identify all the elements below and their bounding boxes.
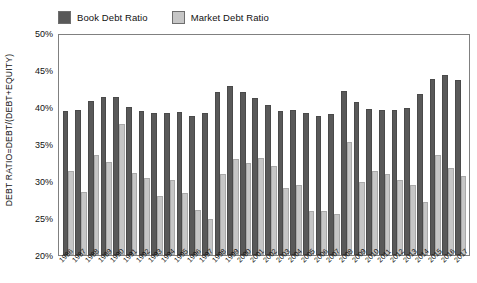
x-axis-tick-slot: 1991 xyxy=(125,257,138,283)
x-axis-tick-slot: 1990 xyxy=(112,257,125,283)
bar-group xyxy=(404,35,417,255)
bar-group xyxy=(87,35,100,255)
bar-group xyxy=(113,35,126,255)
legend-swatch-market-icon xyxy=(172,11,185,24)
y-axis-title: DEBT RATIO=DEBT/(DEBT+EQUITY) xyxy=(0,0,18,260)
bar-group xyxy=(277,35,290,255)
y-axis-tick: 35% xyxy=(35,140,53,150)
bar-market-1986 xyxy=(68,171,74,255)
bars-layer xyxy=(59,35,469,255)
x-axis-tick-slot: 2016 xyxy=(443,257,456,283)
bar-group xyxy=(315,35,328,255)
bar-group xyxy=(416,35,429,255)
x-axis-tick-slot: 2002 xyxy=(265,257,278,283)
bar-group xyxy=(138,35,151,255)
plot-area xyxy=(58,34,470,256)
bar-market-1994 xyxy=(170,180,176,255)
bar-market-2017 xyxy=(461,176,467,255)
x-axis-tick-slot: 2000 xyxy=(239,257,252,283)
x-axis-tick-slot: 2008 xyxy=(341,257,354,283)
bar-chart: Book Debt Ratio Market Debt Ratio DEBT R… xyxy=(0,0,477,283)
bar-market-2002 xyxy=(271,166,277,255)
bar-group xyxy=(353,35,366,255)
bar-market-1987 xyxy=(81,192,87,255)
x-axis-tick-slot: 2010 xyxy=(366,257,379,283)
chart-legend: Book Debt Ratio Market Debt Ratio xyxy=(58,8,358,26)
x-axis-tick-slot: 2009 xyxy=(354,257,367,283)
x-axis-tick-slot: 1997 xyxy=(201,257,214,283)
bar-group xyxy=(201,35,214,255)
bar-group xyxy=(378,35,391,255)
x-axis-tick-slot: 2012 xyxy=(392,257,405,283)
bar-group xyxy=(227,35,240,255)
bar-market-2011 xyxy=(385,174,391,255)
bar-market-2003 xyxy=(283,188,289,255)
x-axis-tick-labels: 1986198719881989199019911992199319941995… xyxy=(58,257,470,283)
x-axis-tick-slot: 1987 xyxy=(74,257,87,283)
y-axis-tick: 30% xyxy=(35,177,53,187)
bar-group xyxy=(75,35,88,255)
y-axis-tick: 40% xyxy=(35,103,53,113)
legend-item-book-debt-ratio: Book Debt Ratio xyxy=(58,11,148,24)
bar-group xyxy=(340,35,353,255)
bar-group xyxy=(302,35,315,255)
x-axis-tick-slot: 2001 xyxy=(252,257,265,283)
bar-market-1999 xyxy=(233,159,239,255)
x-axis-tick-slot: 2011 xyxy=(379,257,392,283)
bar-market-2010 xyxy=(372,171,378,255)
bar-group xyxy=(176,35,189,255)
bar-group xyxy=(429,35,442,255)
bar-group xyxy=(290,35,303,255)
bar-group xyxy=(391,35,404,255)
bar-group xyxy=(151,35,164,255)
y-axis-tick-labels: 20%25%30%35%40%45%50% xyxy=(20,34,56,256)
bar-market-2001 xyxy=(258,158,264,255)
bar-group xyxy=(100,35,113,255)
y-axis-tick: 45% xyxy=(35,66,53,76)
bar-market-2015 xyxy=(435,155,441,255)
bar-group xyxy=(163,35,176,255)
x-axis-tick-slot: 1989 xyxy=(99,257,112,283)
bar-group xyxy=(62,35,75,255)
bar-market-2008 xyxy=(347,142,353,255)
x-axis-tick-slot: 2007 xyxy=(328,257,341,283)
x-axis-tick-slot: 2004 xyxy=(290,257,303,283)
x-axis-tick-slot: 2014 xyxy=(417,257,430,283)
x-axis-tick-slot: 2017 xyxy=(455,257,468,283)
y-axis-title-text: DEBT RATIO=DEBT/(DEBT+EQUITY) xyxy=(4,54,14,207)
bar-market-1992 xyxy=(144,178,150,255)
bar-market-1991 xyxy=(132,173,138,255)
bar-group xyxy=(252,35,265,255)
bar-market-1989 xyxy=(106,162,112,255)
x-axis-tick-slot: 2015 xyxy=(430,257,443,283)
x-axis-tick-slot: 1998 xyxy=(214,257,227,283)
y-axis-tick: 20% xyxy=(35,251,53,261)
bar-market-1998 xyxy=(220,174,226,255)
bar-group xyxy=(125,35,138,255)
x-axis-tick-slot: 1988 xyxy=(86,257,99,283)
legend-item-market-debt-ratio: Market Debt Ratio xyxy=(172,11,269,24)
y-axis-tick: 50% xyxy=(35,29,53,39)
bar-group xyxy=(214,35,227,255)
x-axis-tick-slot: 1994 xyxy=(163,257,176,283)
bar-market-2000 xyxy=(246,163,252,255)
bar-market-1990 xyxy=(119,124,125,255)
x-axis-tick-slot: 1995 xyxy=(175,257,188,283)
bar-group xyxy=(442,35,455,255)
bar-market-2004 xyxy=(296,185,302,255)
x-axis-tick-slot: 1986 xyxy=(61,257,74,283)
x-axis-tick-slot: 1993 xyxy=(150,257,163,283)
bar-group xyxy=(366,35,379,255)
bar-market-1988 xyxy=(94,155,100,255)
bar-group xyxy=(189,35,202,255)
bar-group xyxy=(239,35,252,255)
bar-market-2009 xyxy=(359,182,365,255)
bar-group xyxy=(265,35,278,255)
bar-group xyxy=(328,35,341,255)
bar-market-2013 xyxy=(410,185,416,255)
y-axis-tick: 25% xyxy=(35,214,53,224)
legend-label-market: Market Debt Ratio xyxy=(191,12,269,23)
bar-market-2016 xyxy=(448,168,454,255)
x-axis-tick-slot: 2005 xyxy=(303,257,316,283)
legend-swatch-book-icon xyxy=(58,11,71,24)
